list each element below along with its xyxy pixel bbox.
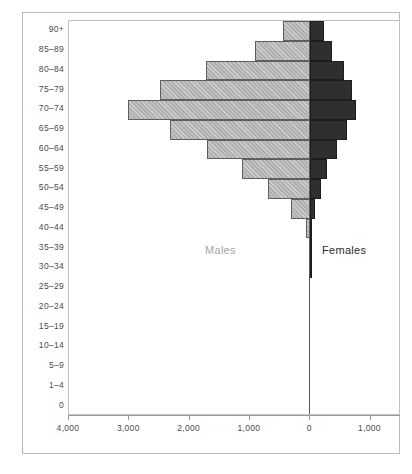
female-bar [310,258,312,278]
female-bar [310,41,332,61]
x-axis-tick [68,415,69,420]
y-axis-tick-label: 20–24 [2,302,64,311]
female-bar [310,140,337,160]
male-bar [170,120,310,140]
pyramid-row [69,120,399,140]
male-bar [206,61,310,81]
y-axis-tick-label: 85–89 [2,45,64,54]
male-bar [128,100,310,120]
y-axis-tick-label: 0 [2,401,64,410]
x-axis-tick [249,415,250,420]
female-bar [310,179,321,199]
males-series-label: Males [205,245,236,256]
y-axis-tick-label: 90+ [2,25,64,34]
pyramid-row [69,41,399,61]
y-axis-tick-label: 15–19 [2,322,64,331]
male-bar [268,179,310,199]
x-axis-tick-label: 4,000 [38,424,98,433]
male-bar [291,199,310,219]
y-axis-tick-label: 80–84 [2,65,64,74]
y-axis-tick-label: 45–49 [2,203,64,212]
y-axis-tick-label: 35–39 [2,243,64,252]
pyramid-row [69,21,399,41]
female-bar [310,159,327,179]
pyramid-row [69,159,399,179]
y-axis-tick-label: 25–29 [2,282,64,291]
male-bar [207,140,310,160]
pyramid-row [69,140,399,160]
x-axis-tick-label: 2,000 [159,424,219,433]
female-bar [310,120,347,140]
y-axis-tick-label: 1–4 [2,381,64,390]
male-bar [160,80,310,100]
male-bar [255,41,310,61]
females-series-label: Females [322,245,366,256]
x-axis-tick [128,415,129,420]
pyramid-row [69,337,399,357]
female-bar [310,219,312,239]
pyramid-row [69,179,399,199]
plot-area [68,20,400,415]
y-axis-tick-label: 50–54 [2,183,64,192]
pyramid-row [69,317,399,337]
pyramid-row [69,377,399,397]
female-bar [310,238,312,258]
male-bar [242,159,310,179]
x-axis-tick-label: 3,000 [98,424,158,433]
y-axis-tick-label: 10–14 [2,341,64,350]
y-axis-tick-label: 65–69 [2,124,64,133]
y-axis-tick-label: 5–9 [2,361,64,370]
male-bar [283,21,310,41]
y-axis-tick-label: 30–34 [2,262,64,271]
pyramid-row [69,80,399,100]
y-axis-tick-label: 75–79 [2,85,64,94]
y-axis-labels: 90+85–8980–8475–7970–7465–6960–6455–5950… [0,20,64,415]
female-bar [310,100,356,120]
y-axis-tick-label: 60–64 [2,144,64,153]
x-axis-line [68,415,400,416]
female-bar [310,80,352,100]
y-axis-tick-label: 70–74 [2,104,64,113]
population-pyramid-chart: 90+85–8980–8475–7970–7465–6960–6455–5950… [0,0,412,474]
pyramid-row [69,100,399,120]
female-bar [310,199,315,219]
x-axis-tick-label: 0 [279,424,339,433]
y-axis-tick-label: 55–59 [2,164,64,173]
x-axis-tick [189,415,190,420]
pyramid-row [69,357,399,377]
x-axis-tick [309,415,310,420]
x-axis-tick-label: 1,000 [340,424,400,433]
chart-plot-frame: 90+85–8980–8475–7970–7465–6960–6455–5950… [0,0,412,474]
pyramid-row [69,396,399,415]
x-axis-tick [370,415,371,420]
pyramid-row [69,219,399,239]
pyramid-row [69,61,399,81]
pyramid-row [69,278,399,298]
female-bar [310,61,344,81]
female-bar [310,21,324,41]
x-axis-tick-label: 1,000 [219,424,279,433]
pyramid-row [69,199,399,219]
pyramid-row [69,258,399,278]
pyramid-row [69,298,399,318]
y-axis-tick-label: 40–44 [2,223,64,232]
